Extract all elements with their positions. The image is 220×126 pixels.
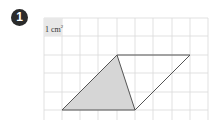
geometry-figure: [0, 0, 220, 126]
unit-square-label: 1 cm2: [44, 18, 62, 36]
problem-number-badge: 1: [11, 9, 28, 26]
unit-label-text: 1 cm: [45, 25, 61, 34]
shaded-triangle: [62, 55, 135, 110]
unit-exponent: 2: [61, 24, 64, 29]
